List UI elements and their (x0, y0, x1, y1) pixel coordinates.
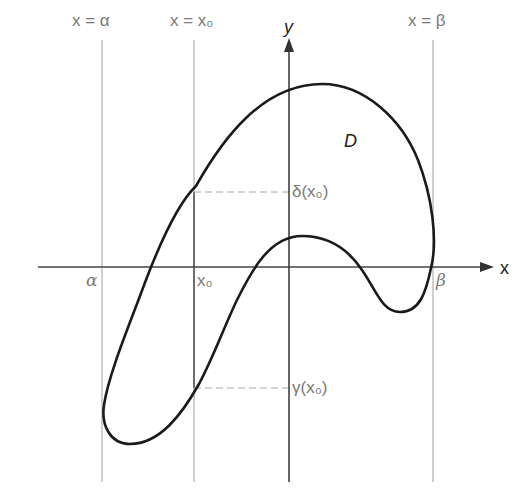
y-axis-arrow-icon (284, 38, 294, 52)
tick-label-alpha: α (86, 272, 97, 289)
tick-label-beta: β (436, 272, 446, 289)
delta-label: δ(x₀) (292, 183, 328, 200)
label-x-equals-x0: x = x₀ (170, 12, 213, 29)
label-x-equals-beta: x = β (408, 12, 446, 29)
x-axis-label: x (500, 259, 509, 277)
x-axis-arrow-icon (480, 262, 494, 272)
region-boundary-curve (103, 84, 433, 444)
y-axis-label: y (284, 18, 293, 36)
region-label-d: D (344, 132, 357, 150)
label-x-equals-alpha: x = α (72, 12, 110, 29)
region-diagram (0, 0, 515, 501)
tick-label-x0: x₀ (197, 272, 213, 289)
gamma-label: γ(x₀) (292, 379, 327, 396)
